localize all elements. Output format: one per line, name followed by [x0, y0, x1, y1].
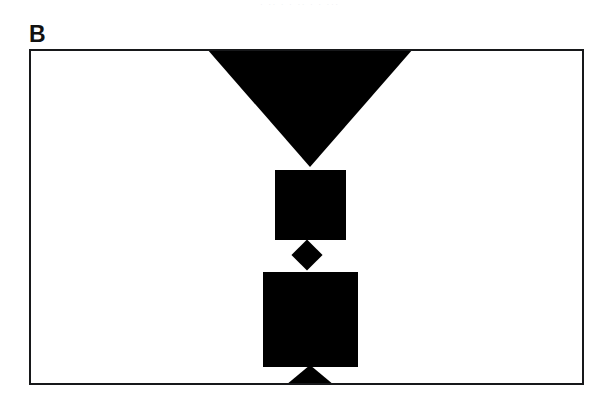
triangle-down-shape	[207, 49, 413, 167]
scan-artifact-strip: · ·· · · ·· · · ···	[0, 0, 600, 9]
panel-label-b: B	[29, 21, 46, 47]
square-upper-shape	[275, 170, 346, 240]
triangle-up-shape	[286, 365, 334, 385]
panel-frame	[29, 49, 584, 385]
square-lower-shape	[263, 272, 358, 367]
shape-stack	[31, 51, 582, 383]
diamond-shape	[291, 239, 322, 270]
figure-page: · ·· · · ·· · · ··· B	[0, 0, 600, 406]
